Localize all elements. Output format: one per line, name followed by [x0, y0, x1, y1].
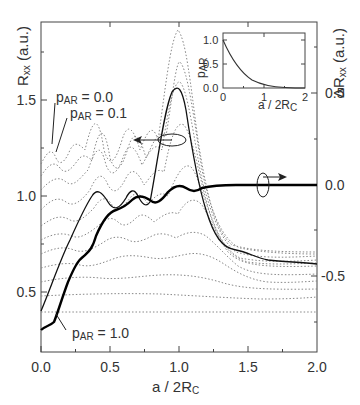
- curve-pAR-0.9: [41, 294, 317, 299]
- inset-y-tick-label: 1.0: [203, 35, 218, 46]
- left-y-tick-label: 0.5: [2, 285, 36, 299]
- left-y-axis-label: Rxx (a.u.): [14, 26, 32, 86]
- x-tick-label: 1.0: [159, 360, 199, 374]
- inset-y-tick-label: 0.0: [203, 83, 218, 94]
- right-y-tick-label: 0.5: [325, 86, 344, 100]
- x-tick-label: 0.0: [21, 360, 61, 374]
- annotation-pAR-0.0: pAR = 0.0: [56, 90, 113, 106]
- curve-pAR-0.4: [41, 166, 317, 264]
- inset-y-axis-label: pAR: [194, 57, 209, 78]
- left-y-tick-label: 1.5: [2, 93, 36, 107]
- curve-pAR-0.8: [41, 275, 317, 289]
- curve-pAR-0.6: [41, 232, 317, 274]
- annotation-pAR-0.1: pAR = 0.1: [70, 106, 127, 122]
- inset-plot: [223, 33, 305, 88]
- inset-x-axis-label: a / 2RC: [258, 99, 297, 113]
- right-y-tick-label: -0.5: [321, 269, 345, 283]
- annotation-pAR-1.0: pAR = 1.0: [72, 326, 129, 342]
- x-axis-label: a / 2RC: [152, 379, 199, 396]
- label-pointers: [52, 103, 67, 330]
- inset-x-tick-label: 2: [302, 92, 308, 103]
- chart-figure: [0, 0, 360, 405]
- inset-x-tick-label: 0: [220, 92, 226, 103]
- x-tick-label: 1.5: [228, 360, 268, 374]
- x-tick-label: 2.0: [297, 360, 337, 374]
- right-y-tick-label: 0.0: [325, 178, 344, 192]
- left-y-tick-label: 1.0: [2, 189, 36, 203]
- x-tick-label: 0.5: [90, 360, 130, 374]
